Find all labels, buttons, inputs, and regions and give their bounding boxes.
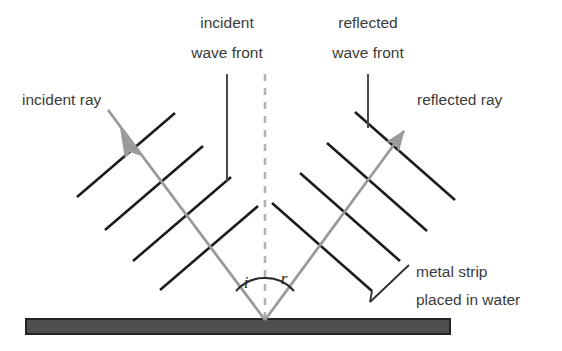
label-reflected-wave-front-line1: reflected <box>338 14 397 31</box>
reflected-wavefront-line <box>300 173 400 261</box>
label-incident-wave-front-line2: wave front <box>190 44 263 61</box>
reflection-diagram: incident ray incident wave front reflect… <box>0 0 562 351</box>
label-angle-of-incidence: i <box>244 273 249 292</box>
label-metal-strip-line1: metal strip <box>416 263 488 280</box>
incident-ray <box>108 110 265 320</box>
metal-strip <box>26 319 450 334</box>
label-incident-wave-front-line1: incident <box>200 14 254 31</box>
incident-wavefront-group <box>77 113 258 290</box>
label-reflected-ray: reflected ray <box>417 91 503 108</box>
label-metal-strip-line2: placed in water <box>416 291 520 308</box>
reflected-wavefront-line <box>355 112 455 200</box>
label-reflected-wave-front-line2: wave front <box>331 44 404 61</box>
reflected-wavefront-line <box>327 143 427 231</box>
diagram-canvas: incident ray incident wave front reflect… <box>0 0 562 351</box>
metal-strip-leader-line <box>370 265 409 302</box>
reflected-ray <box>265 131 404 320</box>
label-angle-of-reflection: r <box>281 269 288 288</box>
incident-wavefront-line <box>133 177 231 261</box>
label-incident-ray: incident ray <box>22 91 102 108</box>
